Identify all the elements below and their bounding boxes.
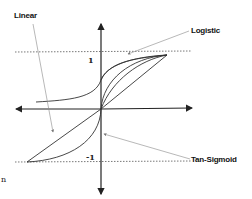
tan-sigmoid-leader — [104, 134, 190, 159]
tan-sigmoid-label: Tan-Sigmoid — [191, 155, 237, 164]
lower-bound-line — [15, 161, 192, 162]
upper-bound-line — [15, 51, 192, 52]
linear-leader — [33, 24, 53, 132]
y-tick-negative: -1 — [86, 152, 95, 162]
x-axis-right — [101, 108, 192, 109]
stray-text: n — [1, 175, 6, 184]
logistic-label: Logistic — [191, 26, 220, 35]
y-tick-positive: 1 — [88, 55, 94, 65]
logistic-leader — [128, 31, 189, 54]
linear-label: Linear — [14, 11, 37, 20]
